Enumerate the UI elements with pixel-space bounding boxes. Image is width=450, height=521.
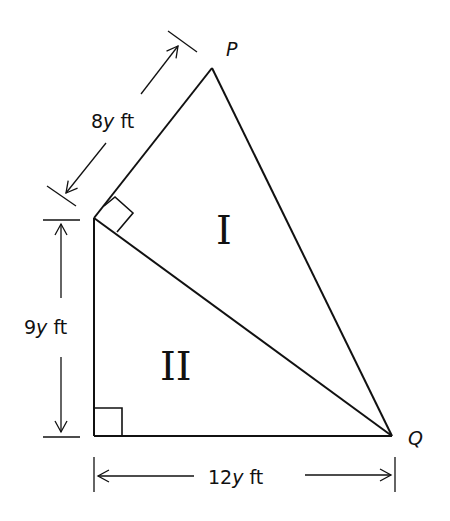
base-label: 12y ft	[208, 466, 263, 488]
side-ap	[94, 68, 212, 218]
height-label: 9y ft	[24, 316, 67, 338]
point-label-p: P	[226, 38, 238, 60]
region-label-i: I	[216, 207, 232, 253]
triangle-i	[94, 68, 392, 436]
point-label-q: Q	[408, 427, 423, 449]
slant-label: 8y ft	[91, 110, 134, 132]
geometry-diagram: 8y ft 9y ft 12y ft I II P Q	[0, 0, 450, 521]
arrow-up-right	[141, 46, 178, 94]
arrow-down-left	[66, 143, 106, 193]
side-pq	[212, 68, 392, 436]
extension-tick-lower	[47, 186, 76, 206]
region-label-ii: II	[160, 343, 192, 389]
right-angle-marker-bottom	[94, 408, 122, 436]
right-angle-marker-top	[104, 197, 133, 232]
extension-tick-upper	[168, 31, 197, 52]
side-aq	[94, 218, 392, 436]
